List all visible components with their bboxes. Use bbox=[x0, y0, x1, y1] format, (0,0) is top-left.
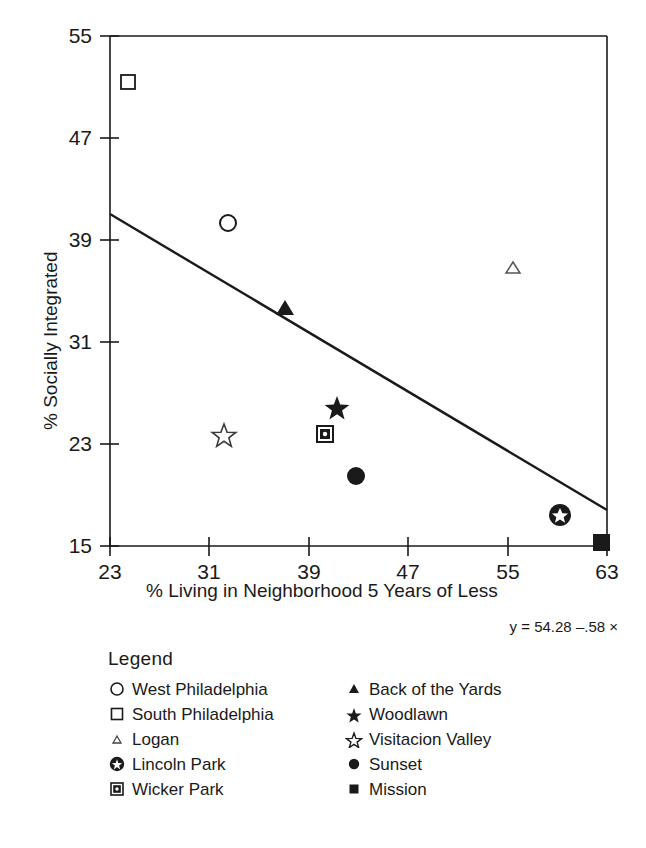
legend-label: Visitacion Valley bbox=[367, 731, 491, 748]
y-tick-label-47: 47 bbox=[46, 126, 92, 150]
data-point-south-philadelphia bbox=[121, 75, 135, 89]
data-point-back-of-the-yards bbox=[276, 300, 294, 315]
filled-square-dot-icon bbox=[108, 780, 130, 798]
y-tick-label-23: 23 bbox=[46, 432, 92, 456]
data-point-west-philadelphia bbox=[220, 215, 236, 231]
regression-line bbox=[110, 214, 607, 510]
legend-item-woodlawn: Woodlawn bbox=[345, 705, 628, 723]
legend-label: Sunset bbox=[367, 756, 422, 773]
legend-item-sunset: Sunset bbox=[345, 755, 628, 773]
legend: Legend West Philadelphia Back of the Yar… bbox=[108, 648, 628, 798]
regression-equation-annotation: y = 54.28 –.58 × bbox=[510, 618, 618, 635]
open-triangle-icon bbox=[108, 730, 130, 748]
open-star-icon bbox=[345, 730, 367, 748]
open-square-icon bbox=[108, 705, 130, 723]
open-circle-icon bbox=[108, 680, 130, 698]
x-axis-title: % Living in Neighborhood 5 Years of Less bbox=[146, 580, 498, 602]
legend-item-logan: Logan bbox=[108, 730, 345, 748]
legend-item-visitacion-valley: Visitacion Valley bbox=[345, 730, 628, 748]
legend-title: Legend bbox=[108, 648, 628, 670]
legend-label: Logan bbox=[130, 731, 179, 748]
data-point-wicker-park bbox=[317, 426, 333, 442]
legend-item-south-philadelphia: South Philadelphia bbox=[108, 705, 345, 723]
filled-circle-icon bbox=[345, 755, 367, 773]
legend-item-back-of-the-yards: Back of the Yards bbox=[345, 680, 628, 698]
scatter-plot-figure: 55 47 39 31 23 15 23 31 39 47 55 63 % So… bbox=[0, 0, 646, 848]
legend-item-wicker-park: Wicker Park bbox=[108, 780, 345, 798]
y-tick-label-15: 15 bbox=[46, 534, 92, 558]
y-tick-label-55: 55 bbox=[46, 24, 92, 48]
data-point-visitacion-valley bbox=[212, 424, 236, 446]
x-tick-label-23: 23 bbox=[87, 560, 133, 584]
legend-label: Woodlawn bbox=[367, 706, 448, 723]
data-point-lincoln-park bbox=[549, 504, 571, 526]
filled-star-icon bbox=[345, 705, 367, 723]
legend-label: Back of the Yards bbox=[367, 681, 502, 698]
data-point-sunset bbox=[347, 467, 365, 485]
legend-label: Lincoln Park bbox=[130, 756, 226, 773]
legend-grid: West Philadelphia Back of the Yards Sout… bbox=[108, 680, 628, 798]
y-tick-label-39: 39 bbox=[46, 228, 92, 252]
filled-square-icon bbox=[345, 780, 367, 798]
filled-triangle-icon bbox=[345, 680, 367, 698]
x-tick-label-63: 63 bbox=[584, 560, 630, 584]
legend-item-west-philadelphia: West Philadelphia bbox=[108, 680, 345, 698]
legend-label: West Philadelphia bbox=[130, 681, 268, 698]
legend-label: Mission bbox=[367, 781, 427, 798]
data-point-woodlawn bbox=[325, 396, 350, 419]
y-axis-title: % Socially Integrated bbox=[40, 252, 62, 431]
data-point-logan bbox=[506, 262, 520, 273]
legend-label: South Philadelphia bbox=[130, 706, 274, 723]
legend-item-mission: Mission bbox=[345, 780, 628, 798]
legend-item-lincoln-park: Lincoln Park bbox=[108, 755, 345, 773]
data-point-mission bbox=[593, 534, 610, 551]
legend-label: Wicker Park bbox=[130, 781, 224, 798]
circle-star-icon bbox=[108, 755, 130, 773]
